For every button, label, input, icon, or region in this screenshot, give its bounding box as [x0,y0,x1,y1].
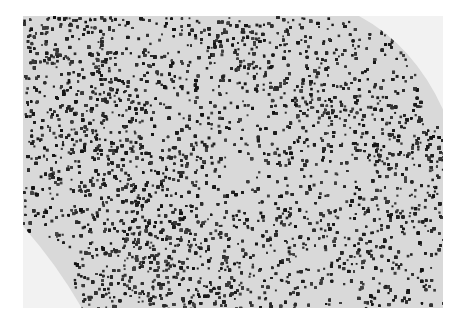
micrograph-canvas [23,16,443,308]
histology-micrograph [23,16,443,308]
